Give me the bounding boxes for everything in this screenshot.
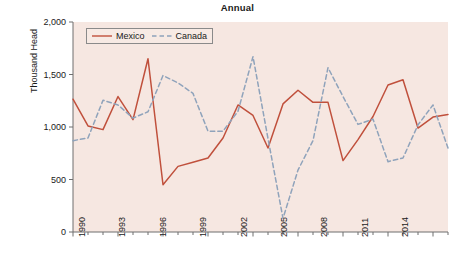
legend-swatch-canada	[152, 32, 172, 40]
x-tick-label: 2005	[279, 217, 289, 237]
legend-entry-canada: Canada	[152, 32, 208, 41]
x-tick-label: 2002	[239, 217, 249, 237]
x-tick-label: 2008	[319, 217, 329, 237]
legend-entry-mexico: Mexico	[92, 32, 145, 41]
legend-label-canada: Canada	[176, 32, 208, 41]
x-tick-label: 1993	[117, 217, 127, 237]
chart-figure: Annual Thousand Head 0 500 1,000 1,500 2…	[0, 0, 475, 278]
x-tick-label: 2014	[400, 217, 410, 237]
x-tick-label: 1999	[198, 217, 208, 237]
legend-label-mexico: Mexico	[116, 32, 145, 41]
x-tick-label: 1996	[158, 217, 168, 237]
x-tick-label: 1990	[77, 217, 87, 237]
x-tick-label: 2011	[360, 218, 370, 237]
x-axis-tick-labels: 1990 1993 1996 1999 2002 2005 2008 2011 …	[0, 0, 475, 278]
chart-legend: Mexico Canada	[86, 28, 213, 44]
legend-swatch-mexico	[92, 32, 112, 40]
